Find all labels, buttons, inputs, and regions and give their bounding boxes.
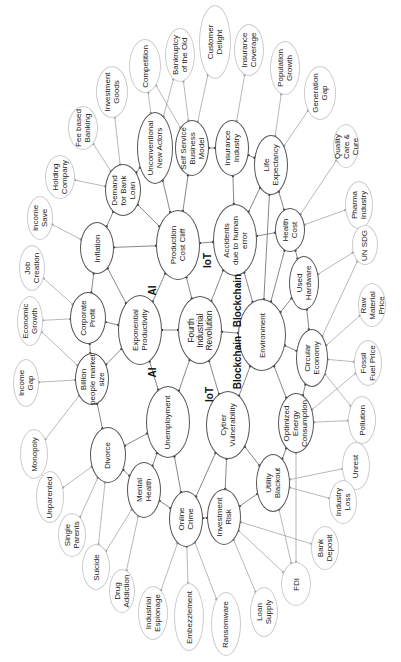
edge-qual-health [300,161,336,215]
node-label: Insurance Industry [223,130,241,165]
node-indloss: Industry Loss [329,480,357,524]
node-holding: Holding Company [45,155,75,199]
node-label: Circular Economy [303,341,321,374]
edge-acc-env [244,273,252,302]
node-health: Health Cost [275,208,305,252]
node-qual: Quality Care & Cure [333,124,359,168]
node-single: Single Parents [58,513,86,557]
edge-inscov-ins [237,75,245,121]
node-exp: Exponential Productivity [118,295,162,365]
node-raw: Raw Material Price [358,283,386,327]
edge-holding-dbl [75,180,105,186]
node-label: Investment Risk [215,497,233,536]
edge-corp-exp [106,322,118,325]
edge-infl-exp [108,268,126,303]
node-label: Bankruptcy of the Old [171,35,189,75]
node-ssbm: Self Service Business Model [175,120,209,176]
node-label: Income Gap [17,370,35,396]
node-label: Drug Addiction [113,575,131,608]
edge-una-prod [163,181,171,213]
node-label: Population Growth [276,49,294,87]
node-inv: Investment Risk [207,489,241,545]
node-label: Economic Growth [21,303,39,338]
node-label: Unparented [46,476,55,518]
edge-ins-acc [233,176,234,204]
edge-raw-circ [326,316,359,346]
node-label: Online Crime [177,507,195,530]
node-indesp: Industrial Espionage [138,586,168,640]
edge-econ-billion [42,332,78,365]
edge-util-inv [240,494,258,506]
node-unpar: Unparented [36,471,64,523]
edge-pharma-health [305,210,346,225]
edge-fdi-util [279,510,291,563]
edge-indesp-crime [161,543,177,590]
edge-crime-unemp [174,456,181,492]
node-label: Divorce [104,441,113,468]
node-drug: Drug Addiction [109,569,135,613]
edge-health-acc [257,233,275,236]
node-pop: Population Growth [270,41,300,95]
node-label: Corporate Profit [79,300,97,336]
edge-unsdg-circ [322,261,357,336]
edge-dbl-infl [107,212,114,227]
node-label: Ransomware [222,600,231,647]
edge-mono-billion [45,396,79,440]
node-acc: Accidents due to human error [213,204,257,276]
node-circ: Circular Economy [296,329,328,387]
node-label: Single Parents [63,521,81,549]
node-env: Environment [238,299,286,371]
node-inscov: Insurance Coverage [234,24,264,76]
node-invgoods: Investment Goods [96,66,128,118]
node-label: Competition [141,45,150,88]
node-job: Job Creation [19,245,45,291]
node-used: Used Hardware [289,256,319,310]
node-label: Investment Goods [103,72,121,111]
edge-infl-corp [91,274,93,293]
technology-label: AI [147,285,158,295]
node-fir: Fourth Industrial Revolution [178,296,222,364]
node-crime: Online Crime [169,491,203,547]
node-label: Mental Health [135,478,153,502]
edge-embez-crime [187,547,188,583]
edge-comp-una [148,92,151,113]
edge-loan-inv [234,540,256,592]
node-label: Quality Care & Cure [333,134,360,159]
node-label: Unconventional New Actors [146,120,164,175]
node-label: Insurance Coverage [240,32,258,67]
node-label: Inflation [93,234,102,262]
node-life: Life Expectancy [254,135,288,195]
node-dbl: Demand for Bank Loan [105,164,141,216]
edge-used-circ [307,310,309,330]
edge-crime-cyber [196,453,215,496]
edge-suicide-mental [106,510,132,551]
node-label: Raw Material Price [359,291,386,319]
edge-invgoods-dbl [115,118,120,165]
edge-bank-ssbm [183,81,188,120]
node-incgap: Income Gap [13,359,39,407]
node-label: Billion people market size [79,354,106,405]
node-label: UN SDG [361,229,370,260]
node-label: Pollution [358,405,367,436]
edge-unsdg-used [318,253,353,275]
edge-poll-circ [325,374,350,406]
edge-prod-fir [186,277,191,298]
node-mono: Monopoly [20,429,48,479]
node-util: Utility Blackout [256,454,290,512]
node-fee: Fee based Banking [68,106,98,150]
edge-util-cyber [245,447,260,466]
node-label: Job Creation [23,253,41,283]
edge-unemp-fir [179,360,190,391]
node-divorce: Divorce [90,427,126,483]
node-una: Unconventional New Actors [137,112,173,184]
edge-opt-util [282,448,286,458]
edge-ssbm-prod [183,175,188,211]
node-label: Generation Gap [311,73,329,113]
node-label: Exponential Productivity [131,309,149,351]
node-label: Life Expectancy [262,144,280,185]
node-opt: Optimized Energy Consumption [278,393,314,453]
node-unsdg: UN SDG [352,225,378,265]
edge-single-divorce [80,478,98,517]
edge-suicide-divorce [98,483,105,545]
node-label: Production Cost Cliff [169,226,187,264]
